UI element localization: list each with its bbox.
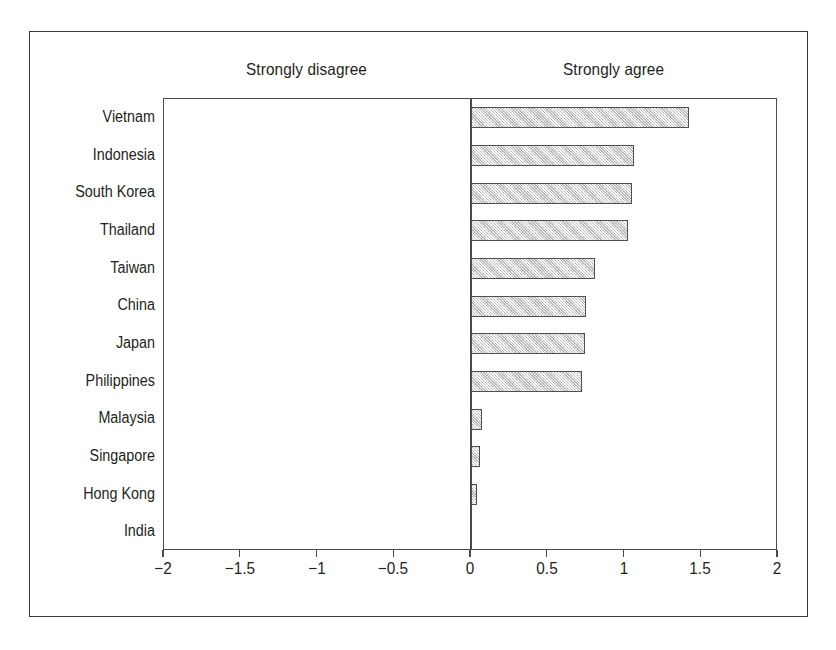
x-axis-tick-label: −1.5 <box>225 560 255 577</box>
x-axis-tick <box>546 550 547 557</box>
bar <box>471 145 634 166</box>
x-axis-tick <box>469 550 470 557</box>
category-label: Thailand <box>12 222 155 238</box>
x-axis-tick-label: 0 <box>466 560 475 577</box>
x-axis-tick <box>623 550 624 557</box>
category-label: Hong Kong <box>12 486 155 502</box>
x-axis-tick-label: 1.5 <box>690 560 711 577</box>
x-axis-tick <box>239 550 240 557</box>
bar <box>471 484 477 505</box>
bar <box>471 446 480 467</box>
bar <box>471 220 628 241</box>
bar <box>471 107 689 128</box>
category-axis-labels: VietnamIndonesiaSouth KoreaThailandTaiwa… <box>0 98 155 550</box>
bar <box>471 296 586 317</box>
bar <box>471 409 482 430</box>
x-axis-tick <box>776 550 777 557</box>
x-axis-tick-label: −0.5 <box>378 560 408 577</box>
x-axis-tick-label: −1 <box>308 560 325 577</box>
bar <box>471 371 582 392</box>
x-axis-tick-label: 0.5 <box>536 560 557 577</box>
category-label: Japan <box>12 335 155 351</box>
x-axis-tick <box>316 550 317 557</box>
x-axis-tick <box>700 550 701 557</box>
category-label: China <box>12 297 155 313</box>
category-label: Singapore <box>12 448 155 464</box>
category-label: Philippines <box>12 373 155 389</box>
x-axis-tick <box>162 550 163 557</box>
bar <box>471 333 585 354</box>
category-label: India <box>12 523 155 539</box>
zero-baseline <box>470 99 472 549</box>
plot-area <box>163 98 777 550</box>
category-label: Taiwan <box>12 260 155 276</box>
x-axis-tick <box>393 550 394 557</box>
figure-canvas: Strongly disagree Strongly agree Vietnam… <box>0 0 836 650</box>
category-label: South Korea <box>12 184 155 200</box>
x-axis-tick-label: 2 <box>773 560 782 577</box>
bar <box>471 183 632 204</box>
bar <box>471 258 595 279</box>
x-axis-tick-label: 1 <box>619 560 628 577</box>
category-label: Malaysia <box>12 410 155 426</box>
caption-strongly-agree: Strongly agree <box>563 60 664 79</box>
category-label: Vietnam <box>12 109 155 125</box>
caption-strongly-disagree: Strongly disagree <box>246 60 367 79</box>
category-label: Indonesia <box>12 147 155 163</box>
x-axis-tick-label: −2 <box>154 560 171 577</box>
